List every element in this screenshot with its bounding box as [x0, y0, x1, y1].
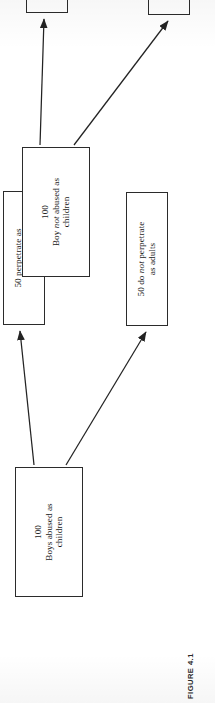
figure-caption: FIGURE 4.1	[186, 653, 195, 699]
node-source-boys-abused-line2: Boys abused as	[44, 473, 55, 591]
node-outcome-not-abused-perpetrate-line2: adults	[47, 0, 58, 7]
rotated-page-container: 100 Boys abused as children 50 perpetrat…	[0, 0, 215, 703]
node-outcome-not-abused-not-perpetrate: 80 do not perpetrate as adults	[148, 0, 190, 15]
node-source-boys-abused: 100 Boys abused as children	[15, 467, 83, 597]
node-outcome-abused-not-perpetrate-line2: as adults	[147, 198, 158, 320]
emphasis-not: not	[136, 261, 146, 273]
node-source-boy-not-abused-line3: children	[61, 153, 72, 271]
node-source-boy-not-abused: 100 Boy not abused as children	[22, 147, 90, 277]
node-source-boy-not-abused-line2: Boy not abused as	[51, 153, 62, 271]
text-post: perpetrate	[136, 222, 146, 262]
node-outcome-abused-not-perpetrate-line1: 50 do not perpetrate	[136, 198, 147, 320]
node-outcome-not-abused-perpetrate-line1: 20 perpetrate as	[36, 0, 47, 7]
text-post: abused as	[51, 178, 61, 216]
node-source-boys-abused-line3: children	[54, 473, 65, 591]
scan-texture-overlay	[0, 0, 215, 703]
arrow-not-abused-to-not-perpetrate	[74, 21, 168, 145]
node-outcome-not-abused-not-perpetrate-line2: as adults	[169, 0, 180, 9]
node-outcome-not-abused-not-perpetrate-line1: 80 do not perpetrate	[158, 0, 169, 9]
arrow-abused-to-not-perpetrate	[66, 332, 146, 465]
text-pre: Boy	[51, 228, 61, 246]
node-source-boys-abused-line1: 100	[33, 473, 44, 591]
node-outcome-not-abused-perpetrate: 20 perpetrate as adults	[26, 0, 68, 13]
emphasis-not: not	[51, 216, 61, 228]
arrow-layer	[0, 0, 215, 703]
arrow-not-abused-to-perpetrate	[40, 19, 44, 145]
node-outcome-abused-not-perpetrate: 50 do not perpetrate as adults	[126, 192, 168, 326]
arrow-abused-to-perpetrate	[20, 331, 34, 465]
figure-canvas: 100 Boys abused as children 50 perpetrat…	[0, 0, 215, 703]
node-source-boy-not-abused-line1: 100	[40, 153, 51, 271]
text-pre: 50 do	[136, 273, 146, 296]
